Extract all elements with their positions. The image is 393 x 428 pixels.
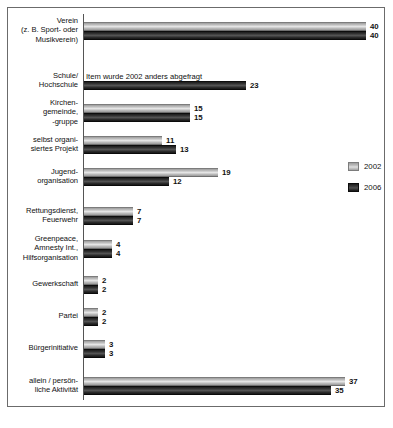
bar-2006[interactable] <box>84 216 133 225</box>
chart-frame: Verein(z. B. Sport- oderMusikverein)4040… <box>7 7 385 407</box>
bar-2002[interactable] <box>84 207 133 216</box>
bar-value-label: 2 <box>102 284 106 295</box>
category-label: Bürgerinitiative <box>6 343 78 352</box>
category-label-line: Amnesty Int., <box>6 243 78 252</box>
category-label-line: Jugend- <box>6 167 78 176</box>
bar-2006[interactable] <box>84 285 98 294</box>
bar-value-label: 12 <box>173 176 182 187</box>
category-label: Schule/Hochschule <box>6 71 78 89</box>
bar-value-label: 35 <box>335 385 344 396</box>
category-label: selbst organi-siertes Projekt <box>6 135 78 153</box>
legend-label: 2006 <box>364 183 381 192</box>
category-label: Kirchen-gemeinde,-gruppe <box>6 98 78 126</box>
category-label-line: Kirchen- <box>6 98 78 107</box>
category-label: Jugend-organisation <box>6 167 78 185</box>
bar-2006[interactable] <box>84 81 246 90</box>
bar-2002[interactable] <box>84 168 218 177</box>
category-label-line: Greenpeace, <box>6 234 78 243</box>
legend-entry-2002[interactable]: 2002 <box>348 160 393 172</box>
category-label-line: allein / persön- <box>6 376 78 385</box>
legend-swatch-2002 <box>348 162 359 171</box>
bar-2002[interactable] <box>84 104 190 113</box>
bar-value-label: 13 <box>180 144 189 155</box>
legend-label: 2002 <box>364 162 381 171</box>
bar-2006[interactable] <box>84 113 190 122</box>
bar-value-label: 4 <box>116 248 120 259</box>
bar-value-label: 3 <box>109 348 113 359</box>
category-label-line: liche Aktivität <box>6 385 78 394</box>
bar-2002[interactable] <box>84 240 112 249</box>
category-label-line: -gruppe <box>6 117 78 126</box>
bar-value-label: 15 <box>194 112 203 123</box>
plot-area: Verein(z. B. Sport- oderMusikverein)4040… <box>8 8 384 406</box>
category-label-line: Gewerkschaft <box>6 279 78 288</box>
bar-value-label: 23 <box>250 80 259 91</box>
bar-2002[interactable] <box>84 136 162 145</box>
category-label-line: gemeinde, <box>6 107 78 116</box>
category-label-line: Bürgerinitiative <box>6 343 78 352</box>
bar-value-label: 7 <box>137 215 141 226</box>
category-label-line: Hilfsorganisation <box>6 253 78 262</box>
category-label: Greenpeace,Amnesty Int.,Hilfsorganisatio… <box>6 234 78 262</box>
category-label-line: Musikverein) <box>6 35 78 44</box>
category-label: Gewerkschaft <box>6 279 78 288</box>
bar-2006[interactable] <box>84 177 169 186</box>
category-label-line: Verein <box>6 16 78 25</box>
category-label: Rettungsdienst,Feuerwehr <box>6 206 78 224</box>
bar-2006[interactable] <box>84 349 105 358</box>
category-label: allein / persön-liche Aktivität <box>6 376 78 394</box>
bar-2006[interactable] <box>84 317 98 326</box>
category-label: Partei <box>6 311 78 320</box>
bar-2006[interactable] <box>84 145 176 154</box>
category-label-line: (z. B. Sport- oder <box>6 25 78 34</box>
chart-legend: 20022006 <box>348 160 393 202</box>
category-label-line: organisation <box>6 176 78 185</box>
category-label-line: Hochschule <box>6 80 78 89</box>
legend-swatch-2006 <box>348 183 359 192</box>
bar-2002[interactable] <box>84 340 105 349</box>
category-label-line: Feuerwehr <box>6 215 78 224</box>
category-label-line: Rettungsdienst, <box>6 206 78 215</box>
bar-value-label: 19 <box>222 167 231 178</box>
category-label-line: siertes Projekt <box>6 144 78 153</box>
category-label-line: Partei <box>6 311 78 320</box>
bar-2006[interactable] <box>84 31 366 40</box>
bar-value-label: 2 <box>102 316 106 327</box>
bar-2002[interactable] <box>84 377 345 386</box>
bar-2002[interactable] <box>84 276 98 285</box>
category-label-line: selbst organi- <box>6 135 78 144</box>
bar-value-label: 40 <box>370 30 379 41</box>
category-label: Verein(z. B. Sport- oderMusikverein) <box>6 16 78 44</box>
bar-2006[interactable] <box>84 249 112 258</box>
bar-value-label: 37 <box>349 376 358 387</box>
category-label-line: Schule/ <box>6 71 78 80</box>
bar-2002[interactable] <box>84 22 366 31</box>
bar-2002[interactable] <box>84 308 98 317</box>
figure-caption <box>180 419 390 428</box>
legend-entry-2006[interactable]: 2006 <box>348 181 393 193</box>
bar-2006[interactable] <box>84 386 331 395</box>
